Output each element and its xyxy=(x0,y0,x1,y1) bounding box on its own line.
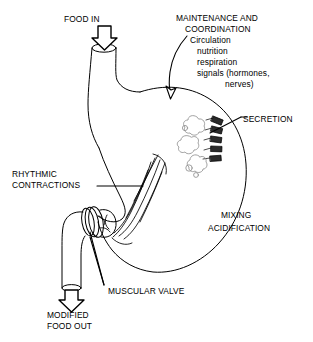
label-contractions: CONTRACTIONS xyxy=(12,180,80,190)
label-maintenance: MAINTENANCE AND xyxy=(176,13,258,23)
modified-food-out-arrow xyxy=(59,290,84,312)
label-muscular-valve: MUSCULAR VALVE xyxy=(108,286,184,296)
stomach-outline xyxy=(98,87,246,272)
label-respiration: respiration xyxy=(197,57,237,67)
label-circulation: Circulation xyxy=(190,35,231,45)
label-coordination: COORDINATION xyxy=(185,24,251,34)
label-nutrition: nutrition xyxy=(197,46,228,56)
secretion-glands xyxy=(177,116,223,178)
duodenum-tube xyxy=(62,212,85,292)
esophagus-tube xyxy=(88,44,140,148)
muscular-valve-leader-line xyxy=(90,232,104,285)
maintenance-coordination-curved-arrow xyxy=(166,36,187,99)
label-signals: signals (hormones, xyxy=(197,68,270,78)
label-food-in: FOOD IN xyxy=(64,14,100,24)
food-in-arrow xyxy=(92,26,117,50)
stomach-diagram: FOOD IN MAINTENANCE AND COORDINATION Cir… xyxy=(0,0,313,342)
label-food-out: FOOD OUT xyxy=(47,321,92,331)
rhythmic-contraction-muscle-fibers xyxy=(112,154,166,244)
label-modified: MODIFIED xyxy=(47,310,89,320)
label-secretion: SECRETION xyxy=(243,114,293,124)
label-acidification: ACIDIFICATION xyxy=(208,223,270,233)
label-mixing: MIXING xyxy=(221,210,251,220)
label-rhythmic: RHYTHMIC xyxy=(12,169,57,179)
label-nerves: nerves) xyxy=(225,79,254,89)
